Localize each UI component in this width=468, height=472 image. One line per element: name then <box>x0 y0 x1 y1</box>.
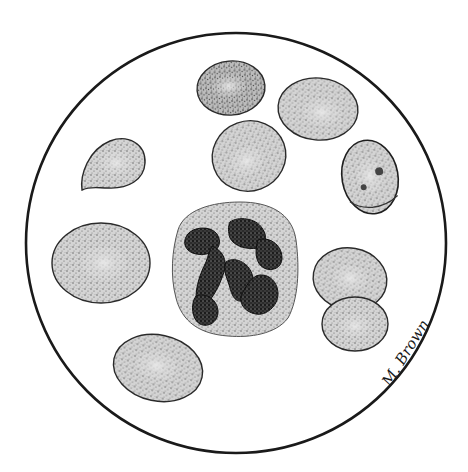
erythrocyte-bottom-left <box>107 326 209 409</box>
erythrocyte-middle <box>202 110 295 201</box>
erythrocyte-with-inclusions <box>336 136 404 219</box>
erythrocyte-large-left <box>52 223 150 303</box>
blood-smear-figure: M. Brown Blood smear illustration showin… <box>0 0 468 472</box>
erythrocyte-pair-bottom <box>322 297 388 351</box>
erythrocyte-top-right <box>275 75 360 144</box>
erythrocyte-top-center <box>195 58 267 118</box>
teardrop-erythrocyte <box>82 139 145 190</box>
smear-svg: M. Brown <box>0 0 468 472</box>
segmented-neutrophil <box>172 202 298 336</box>
